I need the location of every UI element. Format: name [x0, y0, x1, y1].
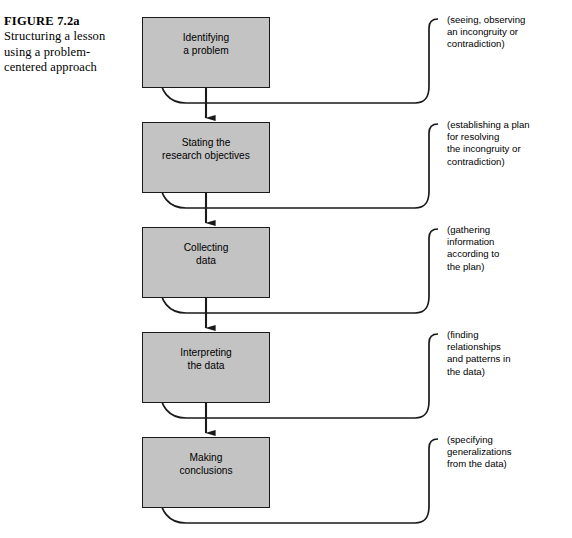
stage-box-interpreting-the-data[interactable]: Interpreting the data [142, 332, 270, 403]
stage-box-collecting-data[interactable]: Collecting data [142, 227, 270, 298]
stage-box-identifying-a-problem[interactable]: Identifying a problem [142, 17, 270, 88]
annotation-stating-the-research-objectives: (establishing a plan for resolving the i… [447, 119, 572, 168]
stage-label: Stating the research objectives [143, 137, 269, 162]
stage-box-making-conclusions[interactable]: Making conclusions [142, 437, 270, 508]
annotation-collecting-data: (gathering information according to the … [447, 224, 572, 273]
stage-label: Interpreting the data [143, 347, 269, 372]
stage-label: Collecting data [143, 242, 269, 267]
stage-box-stating-the-research-objectives[interactable]: Stating the research objectives [142, 122, 270, 193]
stage-label: Identifying a problem [143, 32, 269, 57]
annotation-making-conclusions: (specifying generalizations from the dat… [447, 434, 572, 471]
annotation-identifying-a-problem: (seeing, observing an incongruity or con… [447, 14, 572, 51]
stage-label: Making conclusions [143, 452, 269, 477]
annotation-interpreting-the-data: (finding relationships and patterns in t… [447, 329, 572, 378]
